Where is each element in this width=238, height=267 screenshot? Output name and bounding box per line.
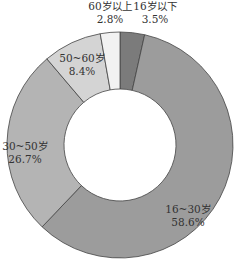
donut-chart: 16岁以下3.5%16~30岁58.6%30~50岁26.7%50~60岁8.4… <box>0 0 238 267</box>
slice-value-label-1: 3.5% <box>142 13 169 25</box>
slice-label-5: 60岁以上 <box>88 0 131 12</box>
slice-value-label-4: 8.4% <box>69 65 96 77</box>
slice-value-label-3: 26.7% <box>8 153 41 165</box>
slice-label-3: 30~50岁 <box>2 140 48 152</box>
slice-value-label-2: 58.6% <box>171 216 204 228</box>
slice-label-1: 16岁以下 <box>133 0 176 12</box>
slice-label-4: 50~60岁 <box>59 52 105 64</box>
slice-label-2: 16~30岁 <box>165 203 211 215</box>
slice-value-label-5: 2.8% <box>97 13 124 25</box>
